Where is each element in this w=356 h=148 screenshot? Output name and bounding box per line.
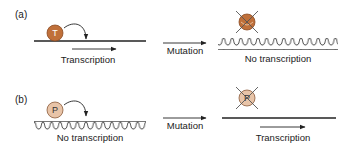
mutation-label: Mutation: [167, 45, 203, 56]
protein-letter: P: [52, 105, 58, 115]
panel-a-mutation: Mutation: [163, 43, 206, 56]
caption-no-transcription: No transcription: [245, 53, 312, 64]
panel-a-label: (a): [15, 9, 27, 20]
caption-transcription: Transcription: [256, 132, 311, 143]
panel-a-before: T Transcription: [34, 24, 146, 65]
crossed-out-protein-p-icon: P: [236, 87, 258, 109]
diagram-canvas: (a) T Transcription Mutation: [0, 0, 356, 148]
mutation-label: Mutation: [167, 120, 203, 131]
panel-b-label: (b): [15, 94, 27, 105]
dna-coiled: [218, 38, 338, 50]
caption-transcription: Transcription: [61, 54, 116, 65]
panel-b-mutation: Mutation: [163, 118, 206, 131]
curved-activation-arrow-icon: [64, 101, 86, 116]
panel-b-after: P Transcription: [222, 87, 336, 143]
transcription-factor-t-icon: T: [47, 25, 63, 41]
protein-p-icon: P: [47, 102, 63, 118]
protein-letter: T: [52, 28, 58, 38]
panel-b: (b) P No transcription Mutation P: [15, 87, 336, 143]
curved-activation-arrow-icon: [64, 24, 86, 39]
panel-a-after: No transcription: [218, 11, 338, 64]
panel-a: (a) T Transcription Mutation: [15, 9, 338, 65]
caption-no-transcription: No transcription: [57, 132, 124, 143]
crossed-out-protein-icon: [236, 11, 258, 33]
panel-b-before: P No transcription: [34, 101, 146, 143]
dna-coiled: [34, 118, 146, 130]
